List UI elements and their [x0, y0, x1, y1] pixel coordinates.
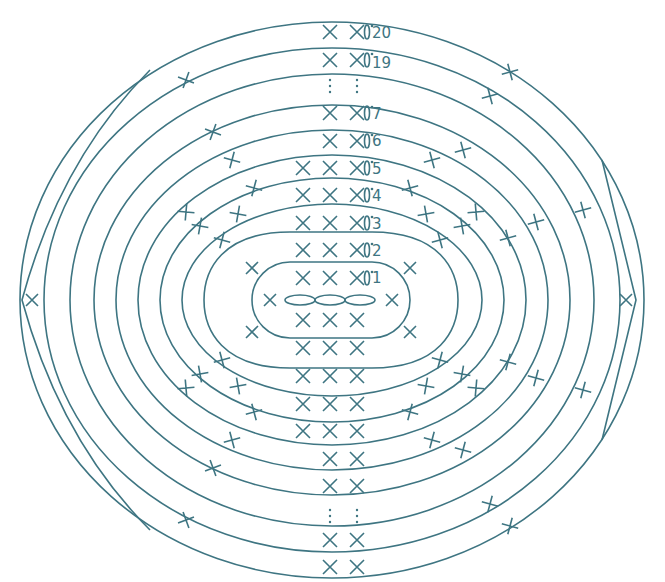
continuation-dot	[329, 521, 331, 523]
single-crochet-icon	[418, 206, 435, 223]
single-crochet-icon	[350, 341, 364, 355]
single-crochet-icon	[296, 424, 310, 438]
single-crochet-icon	[386, 294, 398, 306]
single-crochet-icon	[620, 294, 632, 306]
single-crochet-icon	[296, 161, 310, 175]
single-crochet-icon	[296, 243, 310, 257]
round-end-marker-icon	[365, 53, 370, 67]
left-increase-chevron	[22, 70, 150, 530]
round-labels: 20 19 7 6 5 4 3 2 1	[372, 24, 391, 287]
single-crochet-icon	[323, 271, 337, 285]
round-end-marker-icon	[365, 106, 370, 120]
chain-icon	[345, 295, 375, 305]
round-7-outline	[94, 105, 570, 495]
continuation-dot	[329, 79, 331, 81]
single-crochet-icon	[350, 533, 364, 547]
single-crochet-icon	[205, 460, 221, 476]
side-stitches	[26, 64, 632, 534]
round-19-outline	[44, 48, 620, 552]
single-crochet-icon	[350, 106, 364, 120]
round-6-outline	[116, 130, 548, 470]
single-crochet-icon	[296, 397, 310, 411]
single-crochet-icon	[296, 271, 310, 285]
single-crochet-icon	[528, 214, 544, 230]
single-crochet-icon	[205, 124, 221, 140]
single-crochet-icon	[323, 53, 337, 67]
continuation-dot	[329, 85, 331, 87]
single-crochet-icon	[350, 560, 364, 574]
round-end-marker-icon	[365, 216, 370, 230]
single-crochet-icon	[296, 369, 310, 383]
single-crochet-icon	[350, 134, 364, 148]
single-crochet-icon	[350, 161, 364, 175]
single-crochet-icon	[178, 204, 195, 221]
round-label-2: 2	[372, 242, 382, 260]
single-crochet-icon	[350, 216, 364, 230]
single-crochet-icon	[502, 64, 518, 80]
single-crochet-icon	[323, 424, 337, 438]
single-crochet-icon	[528, 370, 544, 386]
single-crochet-icon	[296, 188, 310, 202]
round-outlines	[20, 22, 644, 578]
single-crochet-icon	[323, 479, 337, 493]
single-crochet-icon	[246, 262, 258, 274]
single-crochet-icon	[323, 533, 337, 547]
single-crochet-icon	[246, 326, 258, 338]
continuation-dot	[356, 85, 358, 87]
round-label-19: 19	[372, 54, 391, 72]
round-1-outline	[252, 262, 410, 338]
single-crochet-icon	[424, 152, 440, 168]
single-crochet-icon	[26, 294, 38, 306]
single-crochet-icon	[404, 262, 416, 274]
single-crochet-icon	[350, 271, 364, 285]
round-end-marker-icon	[365, 161, 370, 175]
single-crochet-icon	[482, 88, 498, 104]
single-crochet-icon	[323, 313, 337, 327]
single-crochet-icon	[323, 25, 337, 39]
single-crochet-icon	[482, 496, 498, 512]
foundation-chain	[285, 295, 375, 305]
round-end-marker-icon	[365, 25, 370, 39]
round-end-marker-icon	[365, 243, 370, 257]
single-crochet-icon	[500, 354, 516, 370]
continuation-dot	[356, 91, 358, 93]
single-crochet-icon	[224, 152, 240, 168]
single-crochet-icon	[468, 204, 485, 221]
continuation-dot	[356, 509, 358, 511]
single-crochet-icon	[468, 380, 485, 397]
chain-icon	[285, 295, 315, 305]
single-crochet-icon	[296, 313, 310, 327]
round-label-3: 3	[372, 215, 382, 233]
single-crochet-icon	[178, 380, 195, 397]
single-crochet-icon	[404, 326, 416, 338]
single-crochet-icon	[296, 341, 310, 355]
continuation-dot	[356, 515, 358, 517]
single-crochet-icon	[323, 106, 337, 120]
single-crochet-icon	[264, 294, 276, 306]
single-crochet-icon	[455, 142, 471, 158]
round-label-7: 7	[372, 105, 382, 123]
single-crochet-icon	[350, 53, 364, 67]
chain-icon	[315, 295, 345, 305]
round-label-6: 6	[372, 132, 382, 150]
round-end-marker-icon	[365, 134, 370, 148]
single-crochet-icon	[455, 442, 471, 458]
single-crochet-icon	[424, 432, 440, 448]
continuation-dot	[356, 521, 358, 523]
round-4-outline	[160, 178, 504, 422]
single-crochet-icon	[575, 382, 591, 398]
single-crochet-icon	[230, 378, 247, 395]
single-crochet-icon	[500, 230, 516, 246]
single-crochet-icon	[323, 216, 337, 230]
round-end-marker-icon	[365, 188, 370, 202]
single-crochet-icon	[230, 206, 247, 223]
single-crochet-icon	[350, 397, 364, 411]
round-label-1: 1	[372, 269, 382, 287]
round-end-marker-icon	[365, 271, 370, 285]
round-label-4: 4	[372, 187, 382, 205]
single-crochet-icon	[323, 243, 337, 257]
right-increase-chevron	[602, 160, 636, 440]
single-crochet-icon	[350, 25, 364, 39]
single-crochet-icon	[350, 188, 364, 202]
single-crochet-icon	[323, 188, 337, 202]
